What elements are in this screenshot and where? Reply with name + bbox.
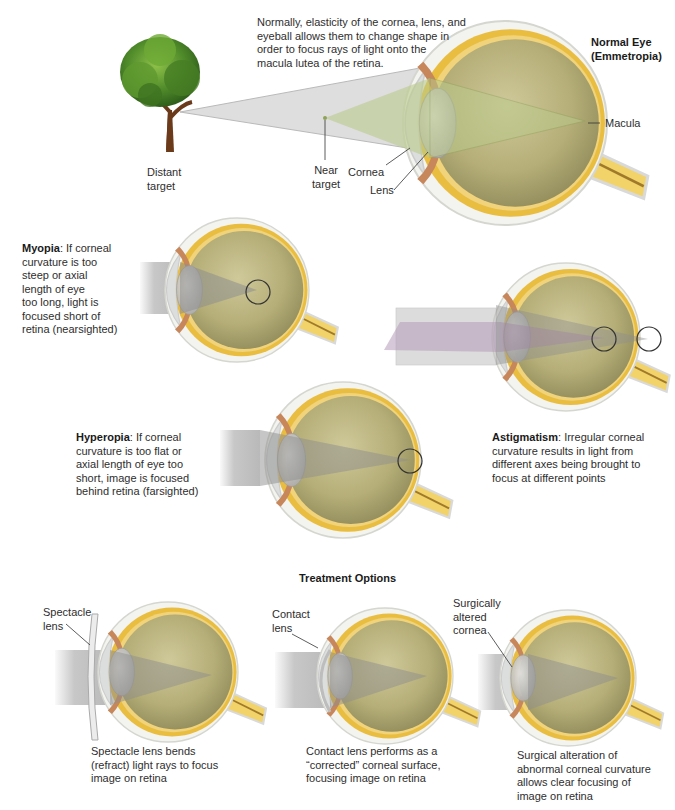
tree-icon	[120, 34, 200, 152]
label-line: Contact	[272, 608, 310, 622]
label-line: altered	[453, 611, 501, 625]
caption-line: Contact lens performs as a	[306, 745, 456, 759]
description-line: curvature results in light from	[492, 445, 672, 459]
description-line: curvature is too	[22, 256, 162, 270]
label-line: lens	[43, 620, 91, 634]
description-line: focus at different points	[492, 472, 672, 486]
astigmatism-eye-figure	[384, 263, 670, 411]
label-line: target	[147, 180, 207, 194]
description-line: Normally, elasticity of the cornea, lens…	[257, 16, 472, 30]
label-line: Surgically	[453, 597, 501, 611]
description-line: curvature is too flat or	[76, 445, 226, 459]
description-line: eyeball allows them to change shape in	[257, 30, 472, 44]
label-line: Near	[312, 164, 340, 178]
caption-line: abnormal corneal curvature	[517, 763, 672, 777]
treatment-options-heading: Treatment Options	[299, 572, 396, 586]
normal-eye-title: Normal Eye (Emmetropia)	[591, 36, 662, 63]
caption-line: focusing image on retina	[306, 772, 456, 786]
description-line: different axes being brought to	[492, 458, 672, 472]
contact-lens-label: Contact lens	[272, 608, 310, 635]
description-line: order to focus rays of light onto the	[257, 43, 472, 57]
lens-label: Lens	[370, 184, 394, 198]
label-line: Distant	[147, 166, 207, 180]
description-line: length of eye	[22, 283, 162, 297]
spectacle-lens-label: Spectacle lens	[43, 606, 91, 633]
title-line: (Emmetropia)	[591, 50, 662, 64]
myopia-description: Myopia: If corneal curvature is too stee…	[22, 242, 162, 337]
macula-label: Macula	[605, 117, 640, 131]
caption-line: (refract) light rays to focus	[91, 759, 241, 773]
normal-eye-description: Normally, elasticity of the cornea, lens…	[257, 16, 472, 70]
surgically-altered-cornea-label: Surgically altered cornea	[453, 597, 501, 638]
description-line: axial length of eye too	[76, 458, 226, 472]
description-line: steep or axial	[22, 269, 162, 283]
myopia-term: Myopia	[22, 242, 60, 254]
eye-diagrams-illustration	[0, 0, 675, 810]
caption-line: “corrected” corneal surface,	[306, 759, 456, 773]
description-line: too long, light is	[22, 296, 162, 310]
astigmatism-description: Astigmatism: Irregular corneal curvature…	[492, 431, 672, 485]
caption-line: Spectacle lens bends	[91, 745, 241, 759]
surgical-alteration-caption: Surgical alteration of abnormal corneal …	[517, 749, 672, 803]
description-line: macula lutea of the retina.	[257, 57, 472, 71]
near-target-label: Near target	[312, 164, 340, 191]
astigmatism-term: Astigmatism	[492, 431, 558, 443]
spectacle-lens-caption: Spectacle lens bends (refract) light ray…	[91, 745, 241, 786]
caption-line: allows clear focusing of	[517, 776, 672, 790]
caption-line: image on retina	[91, 772, 241, 786]
title-line: Normal Eye	[591, 36, 662, 50]
description-line: focused short of	[22, 310, 162, 324]
contact-lens-caption: Contact lens performs as a “corrected” c…	[306, 745, 456, 786]
caption-line: Surgical alteration of	[517, 749, 672, 763]
surgical-cornea-eye-figure	[478, 610, 663, 746]
distant-target-label: Distant target	[147, 166, 207, 193]
description-line: short, image is focused	[76, 472, 226, 486]
myopia-eye-figure	[140, 218, 338, 362]
label-line: lens	[272, 622, 310, 636]
label-line: target	[312, 178, 340, 192]
description-text: : Irregular corneal	[558, 431, 644, 443]
label-line: Spectacle	[43, 606, 91, 620]
description-line: behind retina (farsighted)	[76, 485, 226, 499]
hyperopia-eye-figure	[220, 382, 452, 538]
description-line: retina (nearsighted)	[22, 323, 162, 337]
hyperopia-description: Hyperopia: If corneal curvature is too f…	[76, 431, 226, 499]
hyperopia-term: Hyperopia	[76, 431, 130, 443]
description-text: : If corneal	[60, 242, 111, 254]
caption-line: image on retina	[517, 790, 672, 804]
cornea-label: Cornea	[348, 166, 384, 180]
label-line: cornea	[453, 624, 501, 638]
description-text: : If corneal	[130, 431, 181, 443]
